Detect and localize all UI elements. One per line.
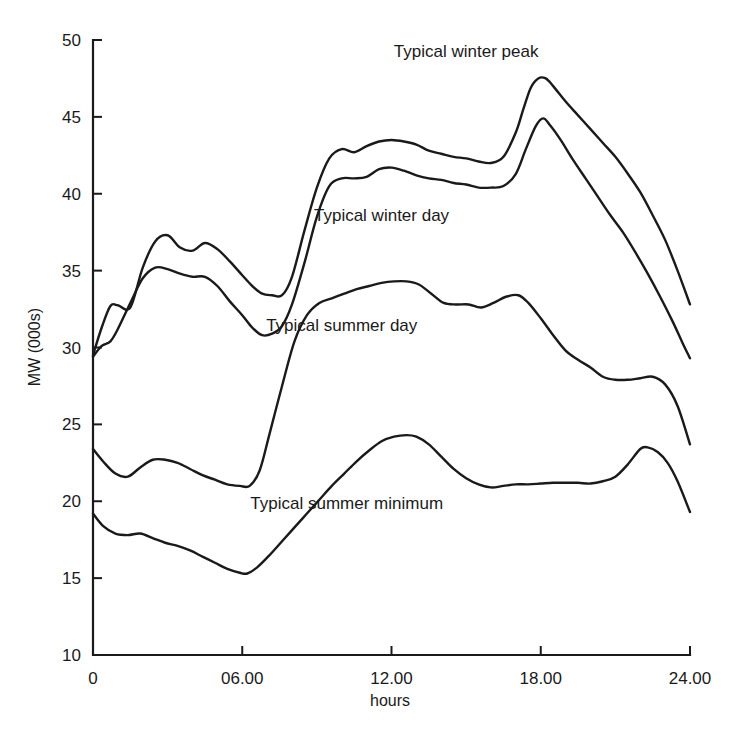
x-axis-title: hours (370, 692, 410, 709)
x-tick-label: 12.00 (370, 669, 413, 688)
y-axis-tick-labels: 101520253035404550 (62, 31, 81, 665)
y-tick-label: 50 (62, 31, 81, 50)
series-label: Typical summer minimum (250, 494, 443, 513)
y-tick-label: 40 (62, 185, 81, 204)
x-tick-label: 24.00 (669, 669, 712, 688)
series-label: Typical summer day (266, 316, 418, 335)
y-axis-title: MW (000s) (26, 308, 43, 386)
y-tick-label: 25 (62, 415, 81, 434)
x-tick-label: 0 (88, 669, 97, 688)
y-tick-label: 35 (62, 262, 81, 281)
x-tick-label: 18.00 (519, 669, 562, 688)
chart-axes (93, 40, 690, 655)
y-tick-label: 10 (62, 646, 81, 665)
chart-ticks (93, 40, 690, 655)
chart-figure: 101520253035404550 006.0012.0018.0024.00… (0, 0, 740, 736)
y-tick-label: 45 (62, 108, 81, 127)
x-axis-tick-labels: 006.0012.0018.0024.00 (88, 669, 711, 688)
series-label: Typical winter day (314, 206, 450, 225)
y-tick-label: 15 (62, 569, 81, 588)
line-chart-svg: 101520253035404550 006.0012.0018.0024.00… (0, 0, 740, 736)
y-tick-label: 20 (62, 492, 81, 511)
x-tick-label: 06.00 (221, 669, 264, 688)
series-label: Typical winter peak (394, 42, 539, 61)
series-annotations: Typical winter peakTypical winter dayTyp… (250, 42, 539, 513)
series-line (93, 281, 690, 487)
y-tick-label: 30 (62, 339, 81, 358)
